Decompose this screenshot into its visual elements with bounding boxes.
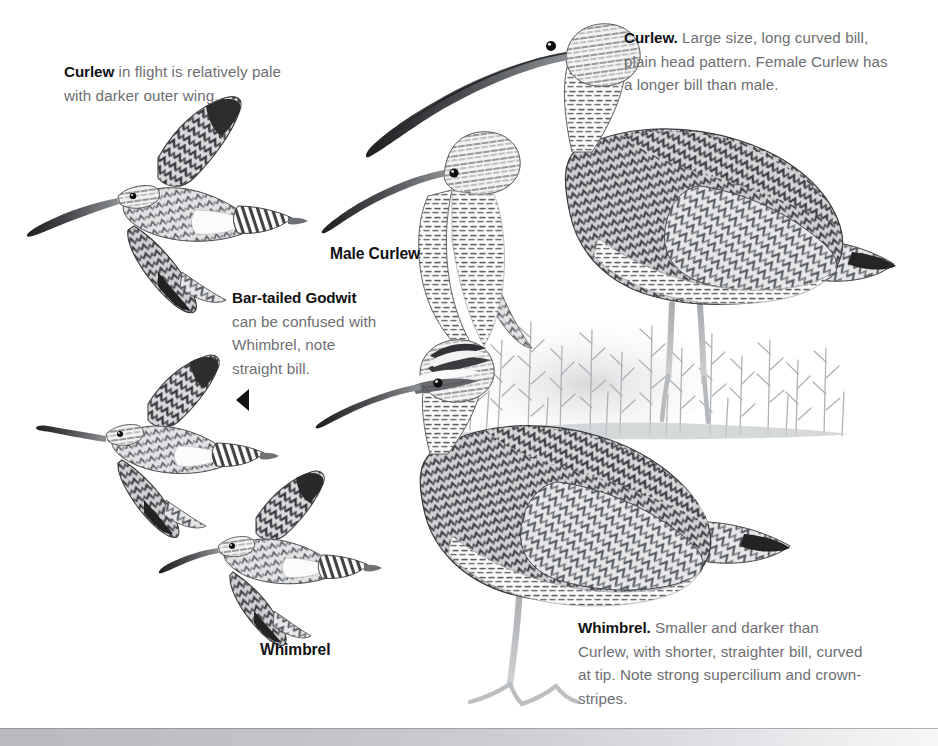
page-footer-bar bbox=[0, 728, 938, 746]
callout-body: can be confused with Whimbrel, note stra… bbox=[232, 313, 376, 377]
label-whimbrel: Whimbrel bbox=[260, 641, 330, 659]
callout-curlew-in-flight: Curlew in flight is relatively pale with… bbox=[64, 60, 296, 107]
callout-whimbrel: Whimbrel. Smaller and darker than Curlew… bbox=[578, 616, 868, 710]
pointer-triangle-icon bbox=[236, 389, 249, 411]
callout-bar-tailed-godwit: Bar-tailed Godwit can be confused with W… bbox=[232, 286, 382, 380]
callout-lead: Curlew. bbox=[624, 29, 678, 46]
callout-lead: Bar-tailed Godwit bbox=[232, 289, 356, 306]
callout-lead: Curlew bbox=[64, 63, 114, 80]
callout-lead: Whimbrel. bbox=[578, 619, 651, 636]
figure-bar-tailed-godwit-in-flight bbox=[36, 355, 279, 537]
label-male-curlew: Male Curlew bbox=[330, 245, 420, 263]
figure-heather-vegetation bbox=[452, 320, 848, 439]
callout-curlew: Curlew. Large size, long curved bill, pl… bbox=[624, 26, 896, 97]
figure-whimbrel-in-flight bbox=[159, 471, 382, 645]
field-guide-page: Curlew in flight is relatively pale with… bbox=[0, 0, 938, 746]
figure-curlew-in-flight bbox=[27, 97, 308, 313]
